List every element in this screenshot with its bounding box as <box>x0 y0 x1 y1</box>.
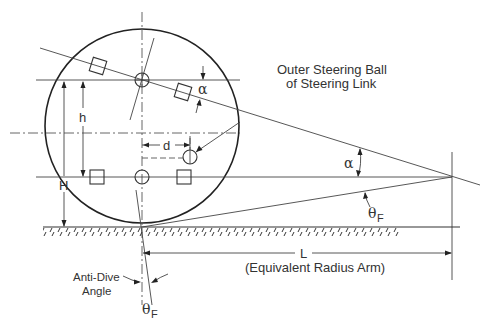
label-anti-dive-1: Anti-Dive <box>73 271 120 283</box>
anti-dive-line <box>136 190 152 305</box>
steering-ball-leader <box>196 122 240 152</box>
label-h: h <box>79 110 86 125</box>
label-outer-ball-2: of Steering Link <box>286 76 377 91</box>
label-alpha-right: α <box>344 155 354 171</box>
label-theta-bottom: θ <box>142 301 150 317</box>
upper-arm-bushing-right <box>174 83 192 101</box>
label-theta-right: θ <box>368 205 376 221</box>
label-theta-right-sub: F <box>377 212 384 224</box>
anti-dive-arrows <box>123 274 168 285</box>
label-theta-bottom-sub: F <box>151 308 158 320</box>
label-anti-dive-2: Angle <box>82 285 111 297</box>
label-H: H <box>59 178 68 193</box>
upper-arm-line <box>40 48 480 185</box>
label-L: L <box>300 246 307 261</box>
label-d: d <box>163 138 170 153</box>
label-L-caption: (Equivalent Radius Arm) <box>245 260 385 275</box>
dimension-h <box>81 81 86 177</box>
upper-ball-joint <box>135 73 149 87</box>
outer-steering-ball <box>183 150 197 164</box>
ground-hatch <box>43 228 401 236</box>
anti-dive-geometry-diagram: d Outer Steering Ball of Steering Link H… <box>0 0 480 324</box>
dimension-L <box>143 251 452 256</box>
alpha-right-arc <box>356 148 363 177</box>
label-outer-ball-1: Outer Steering Ball <box>277 62 387 77</box>
dimension-H <box>62 81 67 227</box>
label-alpha-upper: α <box>198 81 208 97</box>
